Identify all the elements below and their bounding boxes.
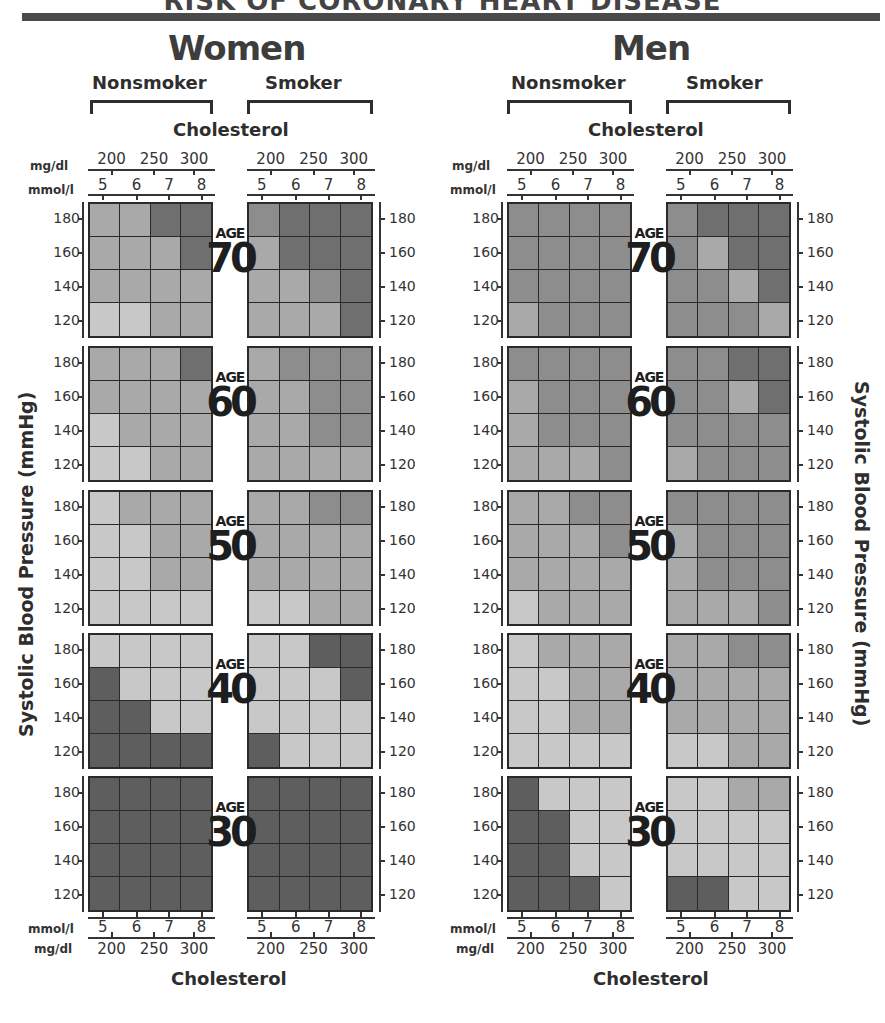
risk-cell [759,844,789,877]
risk-cell [509,492,539,525]
sbp-axis-line [82,490,84,626]
risk-cell [90,635,120,668]
sbp-tick-label: 140 [469,422,499,438]
sbp-tick-label: 140 [50,422,80,438]
sbp-tick-label: 160 [50,532,80,548]
risk-cell [729,734,759,767]
sbp-tick-label: 160 [50,675,80,691]
sbp-tick-label: 180 [389,210,419,226]
risk-cell [310,558,341,591]
risk-cell [698,668,728,701]
risk-grid-men-nonsmoker-age-60 [507,346,632,482]
tick [620,912,622,917]
sbp-tick-label: 160 [50,818,80,834]
mmol-tick-label: 7 [322,176,336,194]
risk-cell [729,877,759,910]
risk-cell [698,591,728,624]
risk-cell [90,668,120,701]
age-number: 70 [200,240,260,276]
risk-cell [539,591,569,624]
risk-cell [759,877,789,910]
sbp-tick-label: 120 [50,886,80,902]
risk-cell [280,635,311,668]
risk-cell [729,591,759,624]
risk-cell [280,811,311,844]
men-top-cholesterol-label: Cholesterol [588,119,704,140]
risk-cell [539,492,569,525]
mgdl-tick-label: 250 [558,150,588,168]
risk-cell [90,811,120,844]
tick [587,912,589,917]
risk-cell [90,237,120,270]
age-label-40: AGE40 [200,657,260,707]
sbp-tick-label: 160 [50,388,80,404]
sbp-axis-line [797,633,799,769]
risk-grid-women-nonsmoker-age-60 [88,346,213,482]
risk-cell [698,237,728,270]
risk-cell [151,701,181,734]
risk-cell [310,877,341,910]
age-label-30: AGE30 [200,800,260,850]
tick [731,170,733,175]
sbp-tick-label: 140 [469,566,499,582]
mmol-tick-label: 5 [674,918,688,936]
risk-cell [509,204,539,237]
risk-cell [280,381,311,414]
mgdl-unit-label-top: mg/dl [30,159,68,173]
risk-cell [759,558,789,591]
sbp-tick-label: 160 [469,532,499,548]
risk-cell [151,668,181,701]
sbp-tick-label: 180 [469,210,499,226]
risk-cell [539,877,569,910]
mmol-axis-top [88,194,215,196]
tick [587,195,589,200]
risk-cell [151,877,181,910]
risk-cell [249,447,280,480]
risk-cell [120,204,150,237]
sbp-tick-label: 180 [807,210,837,226]
risk-cell [570,414,600,447]
risk-cell [509,591,539,624]
risk-cell [310,414,341,447]
mgdl-axis-top [247,169,375,171]
tick [360,195,362,200]
risk-cell [120,348,150,381]
mmol-tick-label: 8 [773,176,787,194]
risk-cell [759,668,789,701]
risk-cell [539,447,569,480]
sbp-tick-label: 120 [50,600,80,616]
tick [521,912,523,917]
risk-cell [90,270,120,303]
sbp-tick-label: 140 [469,709,499,725]
risk-cell [570,844,600,877]
sbp-tick-label: 160 [389,818,419,834]
risk-cell [280,844,311,877]
risk-cell [698,204,728,237]
tick [521,195,523,200]
mgdl-tick-label: 200 [675,150,705,168]
risk-cell [509,525,539,558]
tick [136,912,138,917]
risk-cell [341,811,372,844]
risk-cell [341,734,372,767]
risk-cell [729,635,759,668]
risk-cell [539,811,569,844]
sbp-tick-label: 120 [389,743,419,759]
sbp-tick-label: 180 [389,641,419,657]
risk-cell [570,447,600,480]
risk-cell [310,734,341,767]
sbp-axis-line [82,346,84,482]
risk-cell [539,381,569,414]
risk-cell [310,303,341,336]
tick [360,912,362,917]
age-label-30: AGE30 [619,800,679,850]
risk-cell [570,734,600,767]
risk-cell [729,381,759,414]
risk-grid-men-smoker-age-70 [666,202,791,338]
risk-cell [120,701,150,734]
mgdl-axis-bottom [666,937,793,939]
mmol-tick-label: 8 [773,918,787,936]
age-label-60: AGE60 [200,370,260,420]
risk-cell [120,635,150,668]
tick [261,912,263,917]
